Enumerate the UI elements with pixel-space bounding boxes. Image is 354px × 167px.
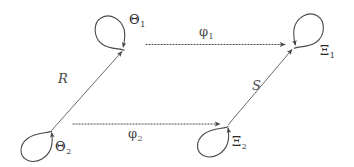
self-loop-theta1 xyxy=(95,16,125,51)
edge-label-phi2: φ2 xyxy=(128,127,143,143)
node-symbol-xi2: Ξ xyxy=(232,134,241,149)
self-loop-xi1 xyxy=(294,14,324,49)
node-symbol-xi1: Ξ xyxy=(320,43,329,58)
edge-symbol-phi1: φ xyxy=(199,24,208,39)
edge-R-arrow xyxy=(52,52,123,131)
node-label-xi1: Ξ1 xyxy=(320,44,335,60)
edge-subscript-phi2: 2 xyxy=(137,134,143,143)
node-label-theta1: Θ1 xyxy=(129,13,145,29)
edge-label-R: R xyxy=(58,72,68,85)
node-symbol-theta2: Θ xyxy=(55,139,66,154)
node-subscript-xi1: 1 xyxy=(329,51,335,60)
edge-symbol-phi2: φ xyxy=(128,126,137,141)
node-subscript-xi2: 2 xyxy=(241,142,247,151)
node-subscript-theta2: 2 xyxy=(66,147,72,156)
node-symbol-theta1: Θ xyxy=(129,12,140,27)
node-label-theta2: Θ2 xyxy=(55,140,71,156)
node-label-xi2: Ξ2 xyxy=(232,135,247,151)
edge-symbol-S: S xyxy=(252,78,261,93)
self-loop-theta2 xyxy=(21,131,52,161)
diagram-canvas: Θ1 Ξ1 Θ2 Ξ2 φ1 φ2 R S xyxy=(0,0,354,167)
node-subscript-theta1: 1 xyxy=(140,20,146,29)
edge-label-phi1: φ1 xyxy=(199,25,214,41)
self-loop-xi2 xyxy=(197,127,228,157)
edge-subscript-phi1: 1 xyxy=(208,32,214,41)
edge-symbol-R: R xyxy=(58,71,68,86)
edge-label-S: S xyxy=(252,79,261,92)
diagram-graphics xyxy=(0,0,354,167)
